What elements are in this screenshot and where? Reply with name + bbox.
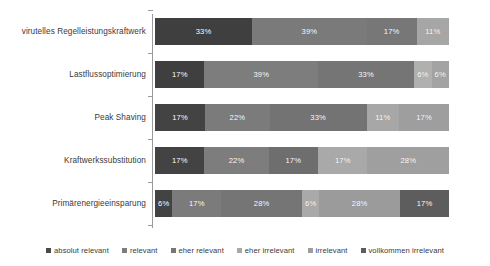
bar-segment[interactable]: 22% <box>205 104 270 131</box>
bar-segment[interactable]: 11% <box>367 104 399 131</box>
legend-label: eher irrelevant <box>245 246 295 255</box>
bar-row: Kraftwerkssubstitution17%22%17%17%28% <box>0 147 490 174</box>
bar-segment[interactable]: 6% <box>302 190 319 217</box>
bar-segment[interactable]: 17% <box>269 147 318 174</box>
bar-segment[interactable]: 17% <box>155 61 204 88</box>
legend-label: vollkommen irrelevant <box>369 246 444 255</box>
segment-value-label: 22% <box>229 156 245 165</box>
axis-tick <box>148 139 153 140</box>
segment-value-label: 39% <box>302 27 318 36</box>
legend-swatch-icon <box>171 248 176 253</box>
category-label: virutelles Regelleistungskraftwerk <box>22 18 146 45</box>
segment-value-label: 17% <box>285 156 301 165</box>
bar-row: Primärenergieeinsparung6%17%28%6%28%17% <box>0 190 490 217</box>
bar-segment[interactable]: 33% <box>318 61 414 88</box>
legend-item[interactable]: absolut relevant <box>46 246 109 255</box>
segment-value-label: 17% <box>172 156 188 165</box>
stacked-bar[interactable]: 17%22%17%17%28% <box>155 147 449 174</box>
axis-tick <box>148 96 153 97</box>
stacked-bar[interactable]: 6%17%28%6%28%17% <box>155 190 449 217</box>
bar-segment[interactable]: 39% <box>252 18 367 45</box>
segment-value-label: 6% <box>305 199 316 208</box>
segment-value-label: 17% <box>384 27 400 36</box>
bar-segment[interactable]: 17% <box>399 104 449 131</box>
segment-value-label: 17% <box>335 156 351 165</box>
bar-segment[interactable]: 22% <box>204 147 268 174</box>
segment-value-label: 17% <box>189 199 205 208</box>
plot-area: virutelles Regelleistungskraftwerk33%39%… <box>0 0 490 232</box>
category-label: Peak Shaving <box>94 104 146 131</box>
legend-item[interactable]: eher relevant <box>171 246 224 255</box>
segment-value-label: 33% <box>358 70 374 79</box>
bar-segment[interactable]: 6% <box>155 190 172 217</box>
legend-item[interactable]: irrelevant <box>308 246 348 255</box>
bar-row: Lastflussoptimierung17%39%33%6%6% <box>0 61 490 88</box>
bar-segment[interactable]: 17% <box>155 147 204 174</box>
bar-segment[interactable]: 33% <box>155 18 252 45</box>
legend-swatch-icon <box>46 248 51 253</box>
bar-segment[interactable]: 28% <box>367 147 449 174</box>
stacked-bar[interactable]: 33%39%17%11% <box>155 18 449 45</box>
segment-value-label: 17% <box>417 199 433 208</box>
bar-row: Peak Shaving17%22%33%11%17% <box>0 104 490 131</box>
bar-segment[interactable]: 6% <box>414 61 431 88</box>
bar-row: virutelles Regelleistungskraftwerk33%39%… <box>0 18 490 45</box>
segment-value-label: 6% <box>158 199 169 208</box>
axis-tick <box>148 225 153 226</box>
legend-label: absolut relevant <box>54 246 109 255</box>
legend-label: eher relevant <box>179 246 224 255</box>
legend-label: relevant <box>130 246 158 255</box>
legend-swatch-icon <box>361 248 366 253</box>
legend-swatch-icon <box>122 248 127 253</box>
bar-segment[interactable]: 17% <box>367 18 417 45</box>
segment-value-label: 17% <box>172 113 188 122</box>
chart-legend: absolut relevantrelevanteher relevantehe… <box>0 240 490 260</box>
legend-item[interactable]: vollkommen irrelevant <box>361 246 444 255</box>
bar-segment[interactable]: 11% <box>417 18 449 45</box>
stacked-bar[interactable]: 17%39%33%6%6% <box>155 61 449 88</box>
bar-segment[interactable]: 17% <box>318 147 367 174</box>
legend-item[interactable]: eher irrelevant <box>237 246 295 255</box>
segment-value-label: 6% <box>435 70 446 79</box>
category-label: Lastflussoptimierung <box>69 61 146 88</box>
bar-segment[interactable]: 39% <box>204 61 318 88</box>
category-label: Kraftwerkssubstitution <box>64 147 146 174</box>
bar-segment[interactable]: 17% <box>172 190 221 217</box>
bar-segment[interactable]: 28% <box>221 190 302 217</box>
segment-value-label: 17% <box>416 113 432 122</box>
segment-value-label: 6% <box>417 70 428 79</box>
category-label: Primärenergieeinsparung <box>52 190 146 217</box>
segment-value-label: 28% <box>352 199 368 208</box>
stacked-bar-chart: virutelles Regelleistungskraftwerk33%39%… <box>0 0 490 266</box>
stacked-bar[interactable]: 17%22%33%11%17% <box>155 104 449 131</box>
segment-value-label: 17% <box>172 70 188 79</box>
segment-value-label: 28% <box>400 156 416 165</box>
segment-value-label: 28% <box>254 199 270 208</box>
segment-value-label: 22% <box>230 113 246 122</box>
bar-segment[interactable]: 33% <box>270 104 367 131</box>
legend-swatch-icon <box>237 248 242 253</box>
legend-item[interactable]: relevant <box>122 246 158 255</box>
bar-segment[interactable]: 17% <box>155 104 205 131</box>
segment-value-label: 11% <box>425 27 440 36</box>
bar-segment[interactable]: 17% <box>400 190 449 217</box>
legend-label: irrelevant <box>316 246 348 255</box>
segment-value-label: 11% <box>375 113 390 122</box>
bar-segment[interactable]: 6% <box>432 61 449 88</box>
segment-value-label: 33% <box>310 113 326 122</box>
segment-value-label: 39% <box>253 70 269 79</box>
segment-value-label: 33% <box>196 27 212 36</box>
legend-swatch-icon <box>308 248 313 253</box>
bar-segment[interactable]: 28% <box>319 190 400 217</box>
axis-tick <box>148 53 153 54</box>
axis-tick <box>148 182 153 183</box>
axis-tick <box>148 10 153 11</box>
